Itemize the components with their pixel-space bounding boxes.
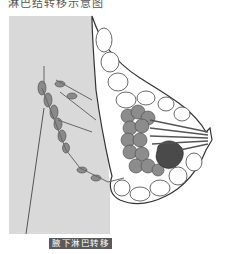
figure-caption: 腋下淋巴转移 (49, 238, 112, 249)
breast-anatomy-illustration (0, 0, 228, 254)
